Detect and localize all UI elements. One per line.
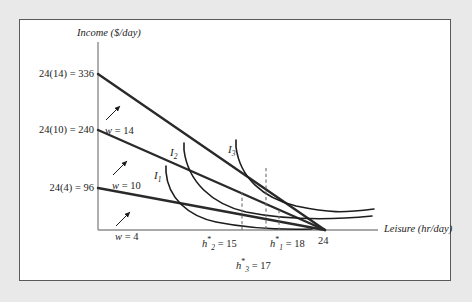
wage-label-w10: w = 10 — [112, 181, 141, 192]
curve-label-subscript: 1 — [158, 175, 162, 184]
curve-label-I2: I2 — [170, 147, 177, 161]
y-tick-label-336: 24(14) = 336 — [20, 69, 94, 80]
pointer-arrow-w14 — [106, 106, 120, 120]
pointer-arrow-w10 — [113, 161, 127, 175]
budget-lines-group — [98, 74, 325, 230]
wage-label-w4: w = 4 — [115, 232, 138, 243]
wage-label-w14: w = 14 — [105, 126, 134, 137]
figure-frame: Income ($/day) Leisure (hr/day) 24(14) =… — [19, 19, 451, 281]
curve-label-subscript: 2 — [174, 152, 178, 161]
optimal-hours-label-h1: h*1 = 18 — [270, 236, 305, 251]
curve-label-I1: I1 — [154, 170, 161, 184]
budget-line-w4 — [98, 188, 325, 230]
pointer-arrows-group — [106, 106, 130, 226]
x-tick-label-24: 24 — [318, 236, 329, 247]
wage-value: = 4 — [122, 231, 138, 242]
h-value: = 18 — [283, 238, 305, 249]
wage-value: = 10 — [119, 180, 141, 191]
figure-page: Income ($/day) Leisure (hr/day) 24(14) =… — [0, 0, 472, 302]
y-tick-label-96: 24(4) = 96 — [20, 183, 94, 194]
budget-line-w14 — [98, 74, 325, 230]
axis-group — [98, 42, 378, 230]
curve-label-subscript: 3 — [232, 149, 236, 158]
h-value: = 17 — [249, 260, 271, 271]
wage-symbol: w — [115, 231, 122, 242]
pointer-arrow-w4 — [116, 212, 130, 226]
wage-symbol: w — [105, 125, 112, 136]
curve-label-I3: I3 — [228, 144, 235, 158]
indifference-curves-group — [166, 140, 374, 229]
optimal-hours-label-h3: h*3 = 17 — [236, 258, 271, 273]
x-axis-title: Leisure (hr/day) — [384, 224, 452, 235]
indifference-curve-I1 — [166, 166, 312, 229]
h-value: = 15 — [215, 238, 237, 249]
y-axis-title: Income ($/day) — [77, 28, 141, 39]
wage-symbol: w — [112, 180, 119, 191]
y-tick-label-240: 24(10) = 240 — [20, 125, 94, 136]
optimal-hours-label-h2: h*2 = 15 — [202, 236, 237, 251]
wage-value: = 14 — [112, 125, 134, 136]
